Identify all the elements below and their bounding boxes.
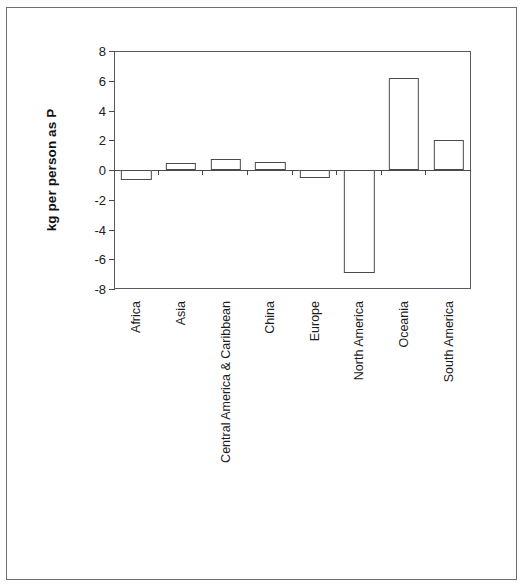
y-tick-label: -4 — [94, 223, 106, 236]
x-axis-label: South America — [442, 301, 455, 382]
x-label-slot: China — [248, 297, 293, 527]
x-label-slot: Oceania — [382, 297, 427, 527]
x-axis-label: North America — [353, 301, 366, 380]
y-tick-label: 0 — [99, 164, 106, 177]
bar-slot — [159, 51, 204, 289]
figure-frame: kg per person as P 86420-2-4-6-8 AfricaA… — [6, 7, 517, 580]
y-tick-label: 6 — [99, 74, 106, 87]
bar[interactable] — [166, 163, 196, 170]
bar-slot — [293, 51, 338, 289]
x-label-slot: Europe — [293, 297, 338, 527]
x-axis-label: Asia — [175, 301, 188, 325]
bar[interactable] — [434, 140, 464, 170]
y-tick-label: -2 — [94, 193, 106, 206]
bar-slot — [248, 51, 293, 289]
x-label-slot: Asia — [159, 297, 204, 527]
y-axis-title: kg per person as P — [41, 51, 61, 289]
x-axis-label: Europe — [309, 301, 322, 341]
bar[interactable] — [344, 170, 374, 273]
plot-wrapper: 86420-2-4-6-8 — [114, 51, 471, 289]
bar[interactable] — [210, 159, 240, 170]
bar-series — [114, 51, 471, 289]
bar-slot — [337, 51, 382, 289]
x-axis-label: China — [264, 301, 277, 334]
x-label-slot: North America — [337, 297, 382, 527]
x-axis-label: Oceania — [398, 301, 411, 348]
y-tick-label: -8 — [94, 283, 106, 296]
bar[interactable] — [121, 170, 151, 180]
x-axis-label: Central America & Caribbean — [219, 301, 232, 463]
y-tick-label: 8 — [99, 45, 106, 58]
bar-slot — [203, 51, 248, 289]
x-label-slot: South America — [426, 297, 471, 527]
x-axis-labels: AfricaAsiaCentral America & CaribbeanChi… — [114, 297, 471, 527]
y-tick-label: 2 — [99, 134, 106, 147]
y-tick-mark — [109, 289, 115, 290]
bar[interactable] — [389, 78, 419, 170]
bar-slot — [426, 51, 471, 289]
y-tick-label: 4 — [99, 104, 106, 117]
bar-slot — [114, 51, 159, 289]
bar[interactable] — [300, 170, 330, 178]
bar[interactable] — [255, 162, 285, 170]
bar-slot — [382, 51, 427, 289]
x-axis-label: Africa — [130, 301, 143, 333]
x-label-slot: Central America & Caribbean — [203, 297, 248, 527]
x-label-slot: Africa — [114, 297, 159, 527]
y-tick-label: -6 — [94, 253, 106, 266]
